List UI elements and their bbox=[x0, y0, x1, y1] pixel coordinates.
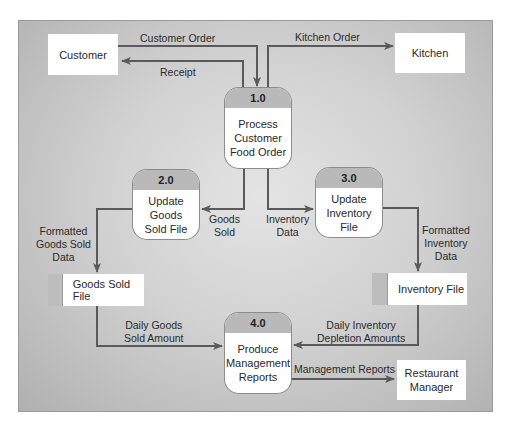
process-4-line: Reports bbox=[226, 370, 290, 384]
process-3-line: File bbox=[326, 220, 371, 234]
process-1-id: 1.0 bbox=[225, 88, 291, 108]
label-line: Sold bbox=[209, 226, 240, 239]
process-3-line: Inventory bbox=[326, 206, 371, 220]
label-line: Customer Order bbox=[140, 32, 215, 44]
data-store-strip bbox=[48, 274, 63, 306]
label-line: Goods Sold bbox=[36, 238, 91, 251]
data-store-goods-sold-label: Goods Sold File bbox=[63, 278, 144, 302]
label-inventory-data: Inventory Data bbox=[266, 213, 309, 239]
data-store-inventory-file: Inventory File bbox=[372, 273, 467, 305]
label-receipt: Receipt bbox=[160, 66, 196, 79]
label-line: Formatted bbox=[422, 224, 470, 237]
entity-kitchen-label: Kitchen bbox=[412, 46, 449, 60]
process-1-name: Process Customer Food Order bbox=[225, 108, 291, 168]
flow-formatted-goods-sold bbox=[97, 209, 133, 272]
label-daily-goods-sold: Daily Goods Sold Amount bbox=[124, 319, 184, 345]
process-1-line: Customer bbox=[230, 131, 286, 145]
process-2-id: 2.0 bbox=[133, 170, 199, 190]
process-2-line: Sold File bbox=[145, 222, 188, 236]
label-line: Inventory bbox=[266, 213, 309, 226]
label-line: Data bbox=[36, 251, 91, 264]
entity-kitchen: Kitchen bbox=[395, 33, 465, 73]
data-store-inventory-label: Inventory File bbox=[388, 283, 464, 295]
process-1: 1.0 Process Customer Food Order bbox=[225, 88, 291, 168]
process-4-id: 4.0 bbox=[225, 313, 291, 333]
label-line: Management Reports bbox=[294, 363, 395, 375]
entity-customer-label: Customer bbox=[59, 48, 107, 62]
flow-goods-sold bbox=[202, 168, 244, 209]
process-3-name: Update Inventory File bbox=[316, 188, 382, 237]
entity-manager-line1: Restaurant bbox=[405, 366, 459, 380]
data-store-goods-sold-file: Goods Sold File bbox=[48, 274, 144, 306]
label-goods-sold: Goods Sold bbox=[209, 213, 240, 239]
label-line: Receipt bbox=[160, 66, 196, 78]
label-management-reports: Management Reports bbox=[294, 363, 395, 376]
flow-inventory-data bbox=[268, 168, 313, 209]
process-1-line: Food Order bbox=[230, 145, 286, 159]
label-line: Sold Amount bbox=[124, 332, 184, 345]
entity-manager-line2: Manager bbox=[410, 380, 453, 394]
label-line: Formatted bbox=[36, 225, 91, 238]
label-customer-order: Customer Order bbox=[140, 32, 215, 45]
process-4: 4.0 Produce Management Reports bbox=[225, 313, 291, 393]
label-line: Daily Goods bbox=[124, 319, 184, 332]
process-3-line: Update bbox=[326, 192, 371, 206]
process-2-line: Update bbox=[145, 194, 188, 208]
label-formatted-inventory: Formatted Inventory Data bbox=[422, 224, 470, 263]
process-1-line: Process bbox=[230, 117, 286, 131]
process-2-name: Update Goods Sold File bbox=[133, 190, 199, 239]
process-3: 3.0 Update Inventory File bbox=[316, 168, 382, 237]
process-4-name: Produce Management Reports bbox=[225, 333, 291, 393]
label-line: Goods bbox=[209, 213, 240, 226]
data-store-strip bbox=[372, 273, 388, 305]
label-line: Daily Inventory bbox=[317, 319, 405, 332]
process-4-line: Produce bbox=[226, 342, 290, 356]
process-2: 2.0 Update Goods Sold File bbox=[133, 170, 199, 239]
label-line: Data bbox=[422, 250, 470, 263]
process-3-id: 3.0 bbox=[316, 168, 382, 188]
entity-customer: Customer bbox=[48, 34, 118, 75]
label-line: Inventory bbox=[422, 237, 470, 250]
label-line: Kitchen Order bbox=[295, 31, 360, 43]
flow-kitchen-order bbox=[268, 46, 393, 89]
label-kitchen-order: Kitchen Order bbox=[295, 31, 360, 44]
label-line: Depletion Amounts bbox=[317, 332, 405, 345]
entity-restaurant-manager: Restaurant Manager bbox=[397, 360, 466, 400]
label-formatted-goods-sold: Formatted Goods Sold Data bbox=[36, 225, 91, 264]
process-4-line: Management bbox=[226, 356, 290, 370]
label-daily-inventory: Daily Inventory Depletion Amounts bbox=[317, 319, 405, 345]
process-2-line: Goods bbox=[145, 208, 188, 222]
flow-formatted-inventory bbox=[382, 208, 418, 271]
label-line: Data bbox=[266, 226, 309, 239]
